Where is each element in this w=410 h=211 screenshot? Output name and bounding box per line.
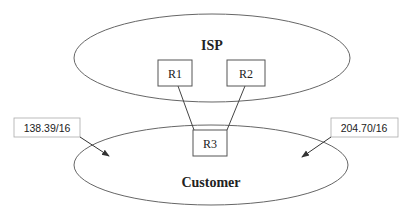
router-r2: R2 bbox=[227, 60, 265, 86]
prefix-left-label: 138.39/16 bbox=[24, 122, 71, 134]
link-r2-r3 bbox=[227, 86, 245, 130]
isp-region: ISP bbox=[74, 14, 350, 102]
router-r3: R3 bbox=[193, 130, 227, 156]
customer-label: Customer bbox=[181, 175, 240, 190]
isp-label: ISP bbox=[201, 38, 223, 53]
router-r1: R1 bbox=[158, 60, 192, 86]
link-r1-r3 bbox=[178, 86, 194, 130]
prefix-right-label: 204.70/16 bbox=[341, 122, 388, 134]
network-diagram: ISP Customer R1 R2 R3 138.39/16 bbox=[0, 0, 410, 211]
router-r2-label: R2 bbox=[239, 67, 253, 81]
prefix-right: 204.70/16 bbox=[302, 118, 398, 157]
router-r1-label: R1 bbox=[168, 67, 182, 81]
router-r3-label: R3 bbox=[203, 137, 217, 151]
prefix-left: 138.39/16 bbox=[14, 118, 109, 156]
diagram-svg: ISP Customer R1 R2 R3 138.39/16 bbox=[0, 0, 410, 211]
